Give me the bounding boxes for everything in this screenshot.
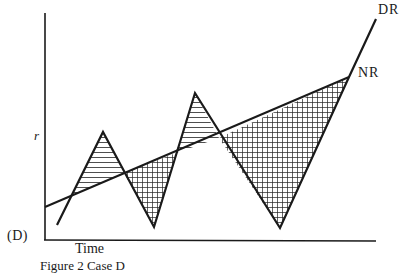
nr-line-label: NR <box>358 66 379 80</box>
panel-label: (D) <box>7 229 28 243</box>
shaded-region-horizontal-2 <box>176 93 219 153</box>
dr-line <box>57 19 376 228</box>
shaded-region-crosshatch-1 <box>124 153 176 227</box>
y-axis-label: r <box>34 129 39 142</box>
x-axis-label: Time <box>75 242 104 256</box>
dr-line-label: DR <box>378 3 399 17</box>
figure-caption: Figure 2 Case D <box>40 259 125 272</box>
shaded-region-crosshatch-2 <box>219 77 349 228</box>
